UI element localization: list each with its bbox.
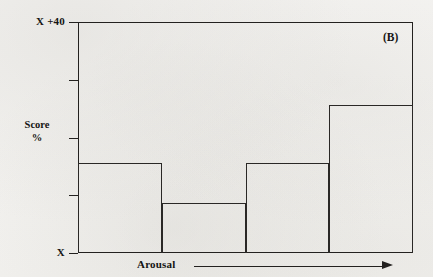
y-axis-title: Score % [8, 118, 66, 144]
y-axis-tick-30 [69, 80, 78, 81]
bar-2 [162, 203, 246, 253]
x-axis-title: Arousal [137, 258, 175, 270]
bar-3 [246, 163, 330, 253]
y-axis-tick-10 [69, 195, 78, 196]
x-axis-caption: Arousal [0, 256, 433, 277]
y-axis-title-line-2: % [8, 131, 66, 144]
y-axis-title-line-1: Score [8, 118, 66, 131]
y-axis-tick-40 [69, 22, 78, 23]
y-axis-tick-20 [69, 138, 78, 139]
y-axis-max-label: X +40 [36, 15, 65, 27]
arrow-right-icon [194, 266, 384, 267]
figure-panel-b: X +40 X Score % (B) Arousal [0, 0, 433, 277]
panel-label: (B) [383, 31, 398, 43]
y-axis-tick-0 [69, 253, 78, 254]
bar-1 [78, 163, 162, 253]
arrow-head-icon [382, 261, 393, 269]
bar-4 [329, 105, 413, 253]
